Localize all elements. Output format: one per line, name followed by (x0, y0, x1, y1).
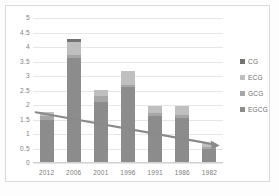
bar-segment-egcg[interactable] (94, 102, 108, 163)
bar-segment-egcg[interactable] (175, 118, 189, 163)
bar-slot (33, 18, 60, 163)
x-axis-tick-label: 1991 (142, 169, 169, 176)
legend-swatch-icon (240, 75, 245, 80)
y-axis-tick-label: 1 (26, 130, 30, 137)
bar-segment-egcg[interactable] (67, 58, 81, 163)
y-axis-tick-label: 2 (26, 101, 30, 108)
y-axis-tick-label: 3.5 (20, 58, 30, 65)
stacked-bar[interactable] (148, 106, 162, 163)
x-axis-tick-label: 1986 (169, 169, 196, 176)
plot-area (33, 18, 223, 163)
y-axis-tick-label: 0.5 (20, 145, 30, 152)
legend-swatch-icon (240, 107, 245, 112)
y-axis-tick-label: 4 (26, 43, 30, 50)
legend-item-gcg[interactable]: GCG (240, 90, 278, 97)
legend-swatch-icon (240, 91, 245, 96)
chart-container: 00.511.522.533.544.55 201220062001199619… (0, 0, 279, 196)
stacked-bar[interactable] (94, 90, 108, 163)
bar-slot (60, 18, 87, 163)
y-axis-tick-label: 3 (26, 72, 30, 79)
legend-item-egcg[interactable]: EGCG (240, 106, 278, 113)
y-axis-tick-label: 1.5 (20, 116, 30, 123)
stacked-bar[interactable] (175, 106, 189, 163)
stacked-bar[interactable] (121, 71, 135, 163)
bar-segment-ecg[interactable] (67, 42, 81, 55)
bar-segment-ecg[interactable] (148, 106, 162, 114)
bar-slot (87, 18, 114, 163)
legend-label: CG (248, 58, 258, 65)
legend-label: EGCG (248, 106, 268, 113)
bar-slot (114, 18, 141, 163)
x-axis-tick-label: 2012 (33, 169, 60, 176)
bar-segment-egcg[interactable] (121, 87, 135, 163)
bar-slot (196, 18, 223, 163)
stacked-bar[interactable] (67, 39, 81, 163)
x-axis-tick-label: 2001 (87, 169, 114, 176)
bar-segment-egcg[interactable] (40, 120, 54, 164)
x-axis-tick-label: 1996 (114, 169, 141, 176)
stacked-bar[interactable] (40, 112, 54, 163)
chart-legend: CGECGGCGEGCG (240, 58, 278, 122)
y-axis-tick-label: 2.5 (20, 87, 30, 94)
x-axis-labels: 2012200620011996199119861982 (33, 166, 223, 180)
x-axis-tick-label: 2006 (60, 169, 87, 176)
bar-segment-ecg[interactable] (175, 106, 189, 114)
bar-segment-ecg[interactable] (121, 71, 135, 84)
bar-slot (142, 18, 169, 163)
legend-item-ecg[interactable]: ECG (240, 74, 278, 81)
bar-segment-egcg[interactable] (148, 116, 162, 163)
legend-label: GCG (248, 90, 263, 97)
y-axis-tick-label: 5 (26, 14, 30, 21)
x-axis-line (33, 162, 223, 163)
gridline (33, 163, 223, 164)
y-axis: 00.511.522.533.544.55 (0, 18, 30, 163)
y-axis-tick-label: 0 (26, 159, 30, 166)
legend-label: ECG (248, 74, 263, 81)
y-axis-tick-label: 4.5 (20, 29, 30, 36)
x-axis-tick-label: 1982 (196, 169, 223, 176)
stacked-bar[interactable] (202, 143, 216, 163)
legend-item-cg[interactable]: CG (240, 58, 278, 65)
bar-segment-egcg[interactable] (202, 149, 216, 163)
legend-swatch-icon (240, 59, 245, 64)
bar-group (33, 18, 223, 163)
bar-slot (169, 18, 196, 163)
